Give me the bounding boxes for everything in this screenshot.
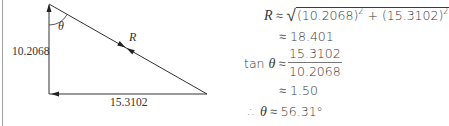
- equation-tan: tan θ≈: [244, 56, 289, 72]
- square-root: √(10.2068)2 + (15.3102)2: [287, 4, 449, 25]
- var-r: R: [264, 8, 273, 23]
- angle-theta-label: θ: [58, 19, 64, 34]
- vertical-side-label: 10.2068: [12, 45, 49, 57]
- var-theta: θ: [268, 56, 275, 71]
- sqrt-icon: √: [287, 5, 296, 25]
- theta-value: 56.31°: [281, 104, 323, 119]
- arrow-down-right-icon: [117, 41, 125, 47]
- therefore-symbol: ∴: [248, 104, 256, 119]
- approx-sign: ≈: [276, 29, 290, 44]
- numerator: 15.3102: [288, 46, 342, 63]
- denominator: 10.2068: [288, 63, 342, 79]
- var-theta: θ: [260, 104, 267, 119]
- equation-theta-result: ∴ θ≈56.31°: [248, 104, 323, 120]
- tan-function: tan: [244, 56, 264, 71]
- equation-tan-value: ≈1.50: [276, 83, 318, 98]
- hypotenuse-label: R: [129, 30, 136, 45]
- arrow-up-left-icon: [127, 48, 135, 55]
- equation-resultant: R≈√(10.2068)2 + (15.3102)2: [264, 4, 449, 25]
- approx-sign: ≈: [273, 8, 287, 23]
- horizontal-side-label: 15.3102: [110, 96, 147, 108]
- approx-sign: ≈: [267, 104, 281, 119]
- fraction: 15.3102 10.2068: [288, 46, 342, 79]
- resultant-value: 18.401: [290, 29, 334, 44]
- radicand: (10.2068)2 + (15.3102)2: [296, 7, 449, 23]
- arrow-left-icon: [51, 92, 59, 97]
- equation-resultant-value: ≈18.401: [276, 29, 334, 44]
- approx-sign: ≈: [276, 83, 290, 98]
- tan-value: 1.50: [290, 83, 318, 98]
